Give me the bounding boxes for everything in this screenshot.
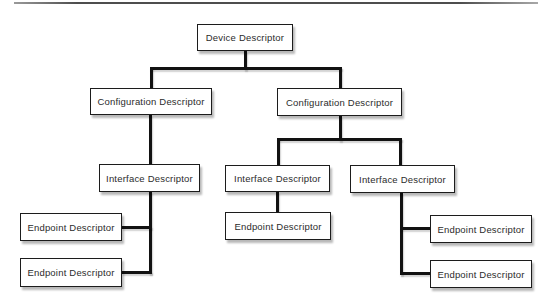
connector-configleft-interfaceleft bbox=[149, 115, 152, 164]
node-device-descriptor: Device Descriptor bbox=[197, 24, 293, 51]
node-endpoint-descriptor-mid: Endpoint Descriptor bbox=[225, 212, 331, 240]
node-endpoint-descriptor-right-1: Endpoint Descriptor bbox=[430, 215, 532, 243]
connector-drop-interface-mid bbox=[277, 138, 280, 165]
connector-interfacemid-endpoint bbox=[276, 192, 279, 212]
connector-interfaceleft-trunk bbox=[149, 192, 152, 274]
connector-endpoint-left-1 bbox=[122, 226, 152, 229]
connector-drop-config-left bbox=[150, 67, 153, 88]
connector-top-split bbox=[150, 67, 342, 70]
connector-endpoint-right-1 bbox=[400, 227, 430, 230]
node-configuration-descriptor-left: Configuration Descriptor bbox=[90, 88, 212, 115]
connector-endpoint-left-2 bbox=[122, 271, 152, 274]
top-rule bbox=[14, 2, 538, 4]
descriptor-hierarchy-diagram: Device Descriptor Configuration Descript… bbox=[0, 0, 555, 305]
connector-drop-config-right bbox=[339, 67, 342, 88]
node-endpoint-descriptor-left-2: Endpoint Descriptor bbox=[20, 258, 122, 287]
node-endpoint-descriptor-left-1: Endpoint Descriptor bbox=[20, 213, 122, 241]
connector-endpoint-right-2 bbox=[400, 272, 430, 275]
connector-interfaceright-trunk bbox=[400, 193, 403, 275]
connector-right-split bbox=[277, 138, 402, 141]
node-interface-descriptor-right: Interface Descriptor bbox=[350, 165, 455, 193]
node-interface-descriptor-left: Interface Descriptor bbox=[99, 164, 200, 192]
connector-drop-interface-right bbox=[399, 138, 402, 165]
node-endpoint-descriptor-right-2: Endpoint Descriptor bbox=[430, 260, 532, 288]
node-configuration-descriptor-right: Configuration Descriptor bbox=[277, 88, 402, 116]
node-interface-descriptor-mid: Interface Descriptor bbox=[225, 165, 330, 192]
